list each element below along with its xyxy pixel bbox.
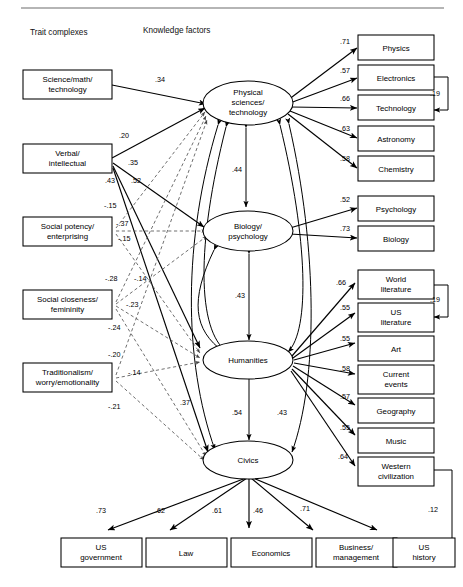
loading-law xyxy=(170,478,247,530)
coef-science-physical: .34 xyxy=(155,75,165,84)
node-us-government[interactable]: US government xyxy=(61,538,142,567)
coef-loading-physics: .71 xyxy=(340,37,350,46)
node-chemistry[interactable]: Chemistry xyxy=(358,156,434,181)
node-label-line1: World xyxy=(386,275,406,284)
loading-us-government xyxy=(108,478,246,530)
coef-loading-us-literature: .55 xyxy=(340,303,350,312)
node-label-line1: Traditionalism/ xyxy=(42,368,94,377)
trait-complex-nodes: Science/math/ technology Verbal/ intelle… xyxy=(23,70,112,392)
node-label-line2: enterprising xyxy=(47,232,88,241)
node-us-history[interactable]: US history xyxy=(393,538,455,567)
coef-socialpotency-physical: -.15 xyxy=(104,201,116,210)
node-label-line1: Business/ xyxy=(339,543,374,552)
coef-loading-astronomy: .63 xyxy=(340,124,350,133)
node-label-line1: Humanities xyxy=(228,356,268,365)
indicator-nodes-bottom: US government Law Economics Business/ ma… xyxy=(61,538,455,567)
node-label-line1: Astronomy xyxy=(377,135,415,144)
coef-socialcloseness-civics: -.24 xyxy=(108,323,120,332)
node-label-line1: Electronics xyxy=(377,74,416,83)
node-science-math-technology[interactable]: Science/math/ technology xyxy=(23,70,112,99)
node-technology[interactable]: Technology xyxy=(358,95,434,120)
node-physics[interactable]: Physics xyxy=(358,35,434,60)
coef-loading-economics: .61 xyxy=(212,506,222,515)
coef-rescorr-western-us-history: .12 xyxy=(428,505,438,514)
coef-rescorr-world-us-literature: .19 xyxy=(430,295,440,304)
node-label-line3: technology xyxy=(229,108,267,117)
coef-socialcloseness-biology: -.14 xyxy=(134,274,146,283)
node-label-line1: Geography xyxy=(376,407,415,416)
node-label-line1: Physics xyxy=(382,44,409,53)
node-humanities[interactable]: Humanities xyxy=(203,341,293,379)
node-law[interactable]: Law xyxy=(146,538,227,567)
node-label-line1: Current xyxy=(383,370,410,379)
indicator-nodes-right: Physics Electronics Technology Astronomy… xyxy=(358,35,434,486)
coef-socialpotency-humanities: -.15 xyxy=(118,234,130,243)
node-western-civilization[interactable]: Western civilization xyxy=(358,457,434,486)
node-physical-sciences-technology[interactable]: Physical sciences/ technology xyxy=(203,81,293,125)
coef-traditionalism-physical: -.20 xyxy=(108,350,120,359)
node-label-line1: US xyxy=(96,543,107,552)
node-label-line2: history xyxy=(412,553,435,562)
node-label-line2: literature xyxy=(381,285,412,294)
node-current-events[interactable]: Current events xyxy=(358,365,434,394)
coef-loading-music: .55 xyxy=(340,423,350,432)
node-label-line1: Technology xyxy=(376,104,416,113)
corr-biology-humanities-curve xyxy=(198,250,224,352)
coef-loading-chemistry: .58 xyxy=(340,154,350,163)
node-label-line1: US xyxy=(419,543,430,552)
knowledge-factor-nodes: Physical sciences/ technology Biology/ p… xyxy=(203,81,293,479)
node-label-line1: Biology/ xyxy=(234,222,263,231)
coef-socialcloseness-physical: -.28 xyxy=(105,274,117,283)
node-label-line2: sciences/ xyxy=(232,98,266,107)
node-electronics[interactable]: Electronics xyxy=(358,65,434,90)
coef-loading-law: .62 xyxy=(155,506,165,515)
coef-loading-current-events: .58 xyxy=(340,364,350,373)
coef-loading-business-management: .46 xyxy=(253,506,263,515)
node-label-line1: Economics xyxy=(252,549,291,558)
node-label-line1: Chemistry xyxy=(378,165,414,174)
node-label-line2: literature xyxy=(381,318,412,327)
corr-physical-civics-right xyxy=(289,124,311,452)
node-label-line1: Science/math/ xyxy=(43,75,94,84)
node-verbal-intellectual[interactable]: Verbal/ intellectual xyxy=(23,144,112,173)
node-traditionalism-worry-emotionality[interactable]: Traditionalism/ worry/emotionality xyxy=(23,363,112,392)
node-astronomy[interactable]: Astronomy xyxy=(358,126,434,151)
factor-correlations xyxy=(191,124,311,452)
structural-paths-positive xyxy=(112,85,208,452)
coef-traditionalism-humanities: -.14 xyxy=(128,368,140,377)
path-traditionalism-to-civics xyxy=(116,381,204,460)
node-us-literature[interactable]: US literature xyxy=(358,303,434,332)
coef-loading-western-civilization: .64 xyxy=(338,452,348,461)
coef-loading-electronics: .57 xyxy=(340,66,350,75)
residual-correlations xyxy=(434,77,452,553)
node-label-line2: events xyxy=(384,380,407,389)
node-biology[interactable]: Biology xyxy=(358,226,434,251)
node-label-line1: Verbal/ xyxy=(55,149,80,158)
coef-socialcloseness-humanities: -.23 xyxy=(126,300,138,309)
node-civics[interactable]: Civics xyxy=(203,441,293,479)
coef-loading-world-literature: .66 xyxy=(336,278,346,287)
coef-loading-biology: .73 xyxy=(340,224,350,233)
node-business-management[interactable]: Business/ management xyxy=(316,538,397,567)
coef-socialpotency-biology: -.37 xyxy=(116,219,128,228)
coef-corr-physical-biology: .44 xyxy=(232,165,242,174)
node-music[interactable]: Music xyxy=(358,428,434,453)
coef-corr-physical-civics: .37 xyxy=(180,398,190,407)
path-socialpotency-to-humanities xyxy=(116,234,200,353)
header-trait-complexes: Trait complexes xyxy=(30,28,87,37)
node-economics[interactable]: Economics xyxy=(231,538,312,567)
node-label-line2: intellectual xyxy=(49,159,87,168)
path-science-to-physical xyxy=(112,85,206,104)
node-psychology[interactable]: Psychology xyxy=(358,196,434,221)
loading-art xyxy=(294,343,355,360)
node-biology-psychology[interactable]: Biology/ psychology xyxy=(203,211,293,251)
node-label-line2: civilization xyxy=(378,472,414,481)
node-geography[interactable]: Geography xyxy=(358,398,434,423)
node-label-line2: psychology xyxy=(228,232,268,241)
node-art[interactable]: Art xyxy=(358,336,434,361)
coef-loading-us-history: .71 xyxy=(300,504,310,513)
coef-verbal-civics: .52 xyxy=(131,176,141,185)
node-social-potency-enterprising[interactable]: Social potency/ enterprising xyxy=(23,217,112,246)
node-social-closeness-femininity[interactable]: Social closeness/ femininity xyxy=(23,290,112,319)
node-world-literature[interactable]: World literature xyxy=(358,270,434,299)
